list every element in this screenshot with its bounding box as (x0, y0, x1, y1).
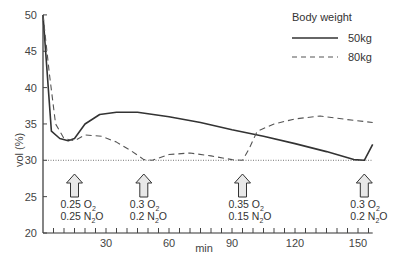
y-tick-label: 45 (25, 45, 37, 57)
x-tick-label: 120 (286, 237, 304, 249)
y-tick-label: 30 (25, 154, 37, 166)
chart-canvas: 20253035404550306090120150 0.25 O20.25 N… (0, 0, 397, 265)
legend-label-50kg: 50kg (348, 32, 372, 44)
legend-title: Body weight (292, 11, 352, 23)
annotation-arrows: 0.25 O20.25 N2O0.3 O20.2 N2O0.35 O20.15 … (61, 174, 388, 224)
annotation-n2o-text: 0.25 N2O (61, 210, 104, 224)
annotation-2: 0.3 O20.2 N2O (130, 174, 167, 224)
series-group (43, 15, 373, 160)
x-tick-label: 60 (163, 237, 175, 249)
y-tick-label: 20 (25, 227, 37, 239)
y-axis-title: vol (%) (13, 133, 25, 167)
y-tick-label: 40 (25, 82, 37, 94)
up-arrow-icon (356, 174, 372, 197)
annotation-3: 0.35 O20.15 N2O (229, 174, 272, 224)
y-tick-label: 50 (25, 9, 37, 21)
y-tick-label: 25 (25, 191, 37, 203)
y-tick-label: 35 (25, 118, 37, 130)
series-line-80kg (43, 15, 373, 160)
series-line-50kg (43, 15, 373, 160)
up-arrow-icon (67, 174, 83, 197)
annotation-n2o-text: 0.2 N2O (130, 210, 167, 224)
annotation-n2o-text: 0.2 N2O (350, 210, 387, 224)
annotation-n2o-text: 0.15 N2O (229, 210, 272, 224)
x-tick-label: 150 (349, 237, 367, 249)
x-tick-label: 90 (226, 237, 238, 249)
legend-label-80kg: 80kg (348, 51, 372, 63)
up-arrow-icon (136, 174, 152, 197)
x-tick-label: 30 (100, 237, 112, 249)
up-arrow-icon (235, 174, 251, 197)
annotation-1: 0.25 O20.25 N2O (61, 174, 104, 224)
x-axis-title: min (195, 242, 213, 254)
annotation-4: 0.3 O20.2 N2O (350, 174, 387, 224)
legend: Body weight 50kg 80kg (292, 11, 372, 63)
